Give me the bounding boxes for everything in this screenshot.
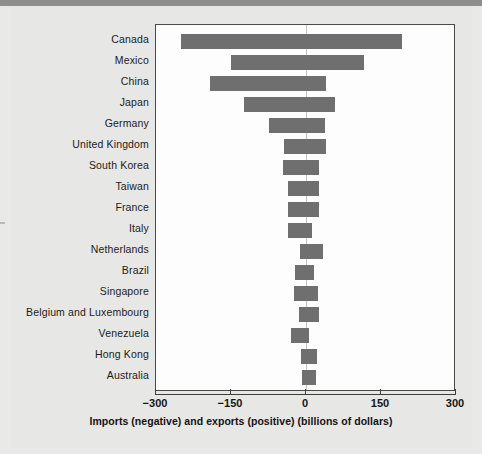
category-label: China — [0, 75, 149, 87]
bar-row — [156, 116, 454, 136]
bar-row — [156, 200, 454, 220]
category-label: Japan — [0, 96, 149, 108]
bar-row — [156, 158, 454, 178]
figure-page: CanadaMexicoChinaJapanGermanyUnited King… — [0, 0, 482, 454]
bar — [210, 76, 326, 91]
category-label: Singapore — [0, 285, 149, 297]
bar — [300, 244, 323, 259]
x-tick-mark — [155, 389, 156, 395]
bar — [283, 160, 319, 175]
category-label: Mexico — [0, 54, 149, 66]
category-label: Germany — [0, 117, 149, 129]
plot-area — [155, 24, 455, 391]
bar-row — [156, 32, 454, 52]
x-tick-label: 0 — [302, 397, 308, 409]
x-tick-label: −150 — [218, 397, 243, 409]
bar — [244, 97, 336, 112]
bar-row — [156, 347, 454, 367]
category-label: Taiwan — [0, 180, 149, 192]
bar-row — [156, 95, 454, 115]
bar — [269, 118, 326, 133]
bar-row — [156, 242, 454, 262]
bar — [295, 265, 314, 280]
x-tick-mark — [455, 389, 456, 395]
x-tick-mark — [380, 389, 381, 395]
bar-row — [156, 137, 454, 157]
x-axis-title: Imports (negative) and exports (positive… — [0, 415, 482, 427]
bar-row — [156, 263, 454, 283]
bar-row — [156, 326, 454, 346]
bar — [288, 223, 312, 238]
category-label: Italy — [0, 222, 149, 234]
category-label: Australia — [0, 369, 149, 381]
bar — [181, 34, 402, 49]
category-label: Canada — [0, 33, 149, 45]
category-label: Netherlands — [0, 243, 149, 255]
bar-row — [156, 305, 454, 325]
bar-row — [156, 284, 454, 304]
x-tick-label: 300 — [446, 397, 464, 409]
bar-row — [156, 179, 454, 199]
bar — [288, 202, 319, 217]
bar — [299, 307, 319, 322]
x-tick-label: −300 — [143, 397, 168, 409]
category-label: United Kingdom — [0, 138, 149, 150]
bar — [288, 181, 319, 196]
bar — [291, 328, 309, 343]
x-tick-mark — [230, 389, 231, 395]
bar-row — [156, 74, 454, 94]
x-tick-label: 150 — [371, 397, 389, 409]
bar-row — [156, 53, 454, 73]
bar-row — [156, 221, 454, 241]
x-tick-mark — [305, 389, 306, 395]
bar-chart-figure: CanadaMexicoChinaJapanGermanyUnited King… — [0, 0, 482, 454]
category-axis-labels: CanadaMexicoChinaJapanGermanyUnited King… — [0, 24, 149, 391]
bar — [302, 370, 316, 385]
category-label: Venezuela — [0, 327, 149, 339]
bar-row — [156, 368, 454, 388]
bar — [294, 286, 318, 301]
category-label: Hong Kong — [0, 348, 149, 360]
category-label: France — [0, 201, 149, 213]
bar — [284, 139, 326, 154]
category-label: South Korea — [0, 159, 149, 171]
category-label: Brazil — [0, 264, 149, 276]
bar — [231, 55, 364, 70]
category-label: Belgium and Luxembourg — [0, 306, 149, 318]
bar — [301, 349, 317, 364]
